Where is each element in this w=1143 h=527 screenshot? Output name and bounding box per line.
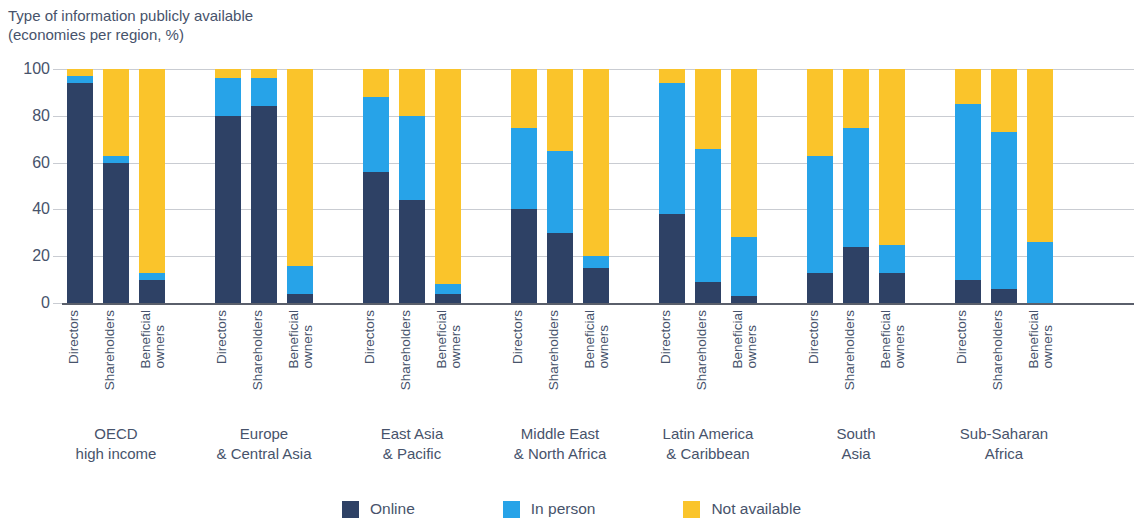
- category-label: Beneficialowners: [583, 310, 609, 369]
- bar-stack: [807, 69, 833, 303]
- category-label: Directors: [807, 310, 833, 364]
- y-axis-tick-mark-0: [53, 303, 62, 304]
- y-axis-tick-mark-80: [53, 116, 62, 117]
- bar-segment-online: [399, 200, 425, 303]
- bar-segment-in-person: [843, 128, 869, 247]
- bar-stack: [139, 69, 165, 303]
- region-label-line-2: & Central Asia: [184, 444, 344, 464]
- bar-segment-online: [659, 214, 685, 303]
- bar-segment-not-available: [363, 69, 389, 97]
- category-label: Beneficialowners: [287, 310, 313, 369]
- legend-item-not-available[interactable]: Not available: [683, 500, 801, 518]
- bar-segment-in-person: [363, 97, 389, 172]
- category-label: Directors: [215, 310, 241, 364]
- bar-segment-online: [67, 83, 93, 303]
- bar-segment-online: [879, 273, 905, 303]
- bar-segment-in-person: [67, 76, 93, 83]
- category-label-line-1: Beneficial: [879, 310, 893, 369]
- category-label: Shareholders: [103, 310, 129, 390]
- bar-segment-in-person: [659, 83, 685, 214]
- region-label-line-1: Sub-Saharan: [924, 424, 1084, 444]
- legend-swatch-online: [342, 501, 359, 518]
- bar-segment-in-person: [287, 266, 313, 294]
- bar-segment-not-available: [659, 69, 685, 83]
- bar-segment-not-available: [287, 69, 313, 266]
- bar-segment-in-person: [251, 78, 277, 106]
- bar-segment-online: [955, 280, 981, 303]
- y-axis-tick-100: 100: [4, 60, 50, 78]
- region-label-line-1: South: [776, 424, 936, 444]
- chart-legend: OnlineIn personNot available: [0, 500, 1143, 518]
- category-label: Directors: [955, 310, 981, 364]
- bar-stack: [287, 69, 313, 303]
- category-label: Shareholders: [991, 310, 1017, 390]
- bar-stack: [215, 69, 241, 303]
- chart-title: Type of information publicly available (…: [8, 6, 253, 44]
- category-label-line-1: Beneficial: [435, 310, 449, 369]
- category-label: Directors: [511, 310, 537, 364]
- category-label-line-1: Beneficial: [583, 310, 597, 369]
- bar-stack: [399, 69, 425, 303]
- category-label: Directors: [363, 310, 389, 364]
- legend-swatch-in-person: [503, 501, 520, 518]
- legend-item-online[interactable]: Online: [342, 500, 415, 518]
- bar-segment-not-available: [435, 69, 461, 284]
- bar-stack: [731, 69, 757, 303]
- bar-segment-not-available: [251, 69, 277, 78]
- y-axis-tick-mark-100: [53, 69, 62, 70]
- bar-stack: [435, 69, 461, 303]
- bar-segment-not-available: [955, 69, 981, 104]
- bar-segment-online: [843, 247, 869, 303]
- bar-segment-in-person: [879, 245, 905, 273]
- legend-label: Online: [370, 500, 415, 518]
- bar-segment-not-available: [583, 69, 609, 256]
- category-label-line-2: owners: [449, 310, 463, 369]
- bar-segment-online: [215, 116, 241, 303]
- plot-area: 100806040200: [62, 69, 1134, 303]
- y-axis-tick-60: 60: [4, 154, 50, 172]
- category-label: Shareholders: [251, 310, 277, 390]
- bar-stack: [511, 69, 537, 303]
- region-label-line-1: OECD: [36, 424, 196, 444]
- bar-segment-not-available: [843, 69, 869, 128]
- bar-segment-not-available: [215, 69, 241, 78]
- bar-segment-not-available: [547, 69, 573, 151]
- bar-segment-not-available: [1027, 69, 1053, 242]
- legend-swatch-not-available: [683, 501, 700, 518]
- chart-title-line-2: (economies per region, %): [8, 25, 253, 44]
- bar-segment-online: [695, 282, 721, 303]
- bar-stack: [251, 69, 277, 303]
- bar-segment-in-person: [583, 256, 609, 268]
- category-label: Shareholders: [399, 310, 425, 390]
- bar-segment-online: [287, 294, 313, 303]
- region-label-line-2: & Caribbean: [628, 444, 788, 464]
- bar-segment-in-person: [731, 237, 757, 296]
- y-axis-tick-mark-20: [53, 256, 62, 257]
- bar-segment-in-person: [139, 273, 165, 280]
- y-axis-tick-mark-60: [53, 163, 62, 164]
- bar-segment-online: [511, 209, 537, 303]
- y-axis-tick-mark-40: [53, 209, 62, 210]
- category-label: Beneficialowners: [879, 310, 905, 369]
- region-label-line-1: East Asia: [332, 424, 492, 444]
- bar-stack: [67, 69, 93, 303]
- bar-segment-not-available: [731, 69, 757, 237]
- bar-segment-online: [139, 280, 165, 303]
- category-label: Shareholders: [547, 310, 573, 390]
- bar-stack: [991, 69, 1017, 303]
- category-label: Shareholders: [843, 310, 869, 390]
- y-axis-tick-0: 0: [4, 294, 50, 312]
- category-label-line-2: owners: [745, 310, 759, 369]
- legend-label: Not available: [711, 500, 801, 518]
- bar-segment-online: [583, 268, 609, 303]
- bar-segment-not-available: [67, 69, 93, 76]
- bar-segment-online: [363, 172, 389, 303]
- category-label-line-1: Beneficial: [731, 310, 745, 369]
- bar-segment-not-available: [399, 69, 425, 116]
- region-label-line-2: Asia: [776, 444, 936, 464]
- legend-item-in-person[interactable]: In person: [503, 500, 596, 518]
- bar-segment-in-person: [547, 151, 573, 233]
- region-label-line-2: Africa: [924, 444, 1084, 464]
- chart-figure: Type of information publicly available (…: [0, 0, 1143, 527]
- category-label-line-1: Beneficial: [1027, 310, 1041, 369]
